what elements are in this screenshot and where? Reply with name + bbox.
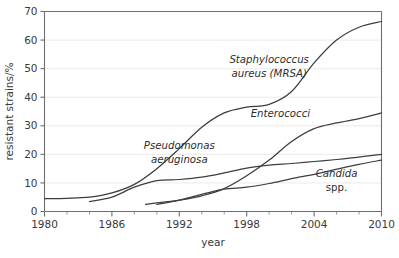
series-annotations: Staphylococcusaureus (MRSA)Pseudomonasae… (144, 54, 358, 193)
series-line-candida-spp (157, 160, 382, 204)
y-tick-label-20: 20 (24, 148, 37, 160)
x-axis-title: year (201, 236, 225, 248)
chart-canvas: 010203040506070198019861992199820042010 … (0, 0, 399, 258)
y-tick-label-60: 60 (24, 34, 37, 46)
x-tick-label-1998: 1998 (233, 218, 260, 230)
y-tick-label-0: 0 (31, 205, 38, 217)
series-label-staphylococcus-aureus-mrsa-line1: Staphylococcus (229, 54, 309, 65)
series-label-candida-spp-line2: spp. (326, 182, 347, 193)
x-tick-label-1980: 1980 (31, 218, 58, 230)
series-label-enterococci-line1: Enterococci (251, 108, 311, 119)
series-label-pseudomonas-aeruginosa-line2: aeruginosa (151, 154, 208, 165)
resistance-trend-chart: 010203040506070198019861992199820042010 … (0, 0, 399, 258)
gridlines (45, 12, 382, 183)
y-tick-label-50: 50 (24, 62, 37, 74)
series-label-candida-spp-line1: Candida (316, 168, 358, 179)
y-tick-label-70: 70 (24, 5, 37, 17)
y-tick-label-30: 30 (24, 119, 37, 131)
x-tick-label-2010: 2010 (368, 218, 395, 230)
y-axis-title: resistant strains/% (3, 63, 15, 161)
x-tick-label-1992: 1992 (166, 218, 193, 230)
series-label-staphylococcus-aureus-mrsa-line2: aureus (MRSA) (231, 68, 306, 79)
y-tick-label-10: 10 (24, 177, 37, 189)
x-tick-label-1986: 1986 (99, 218, 126, 230)
y-tick-label-40: 40 (24, 91, 37, 103)
x-tick-label-2004: 2004 (301, 218, 328, 230)
series-label-pseudomonas-aeruginosa-line1: Pseudomonas (144, 140, 216, 151)
